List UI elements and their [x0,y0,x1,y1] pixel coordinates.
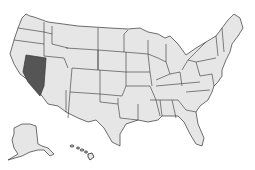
state-nevada[interactable] [23,55,46,96]
state-hawaii [70,145,94,160]
state-alaska [8,124,54,160]
us-map [0,0,255,170]
contiguous-us [10,14,243,146]
